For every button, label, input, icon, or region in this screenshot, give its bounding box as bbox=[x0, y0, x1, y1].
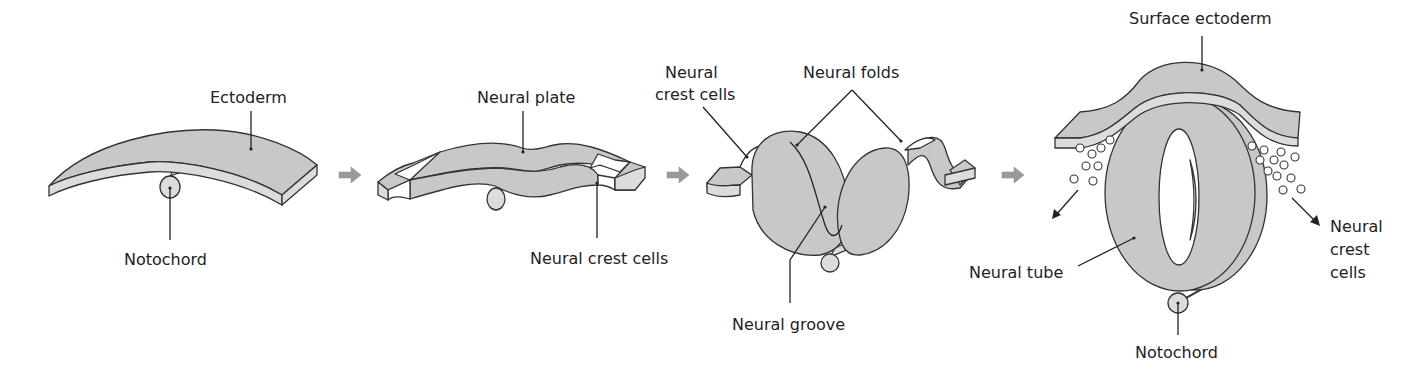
migration-arrow-left-icon bbox=[1056, 190, 1078, 215]
label-surface-ectoderm: Surface ectoderm bbox=[1129, 9, 1272, 28]
label-ectoderm: Ectoderm bbox=[210, 88, 287, 107]
label-neural-crest-line2-4: crest bbox=[1330, 240, 1369, 259]
label-neural-tube: Neural tube bbox=[969, 263, 1063, 282]
neurulation-diagram: Ectoderm Notochord Neural plate Neural c… bbox=[0, 0, 1416, 373]
label-neural-folds: Neural folds bbox=[803, 63, 899, 82]
label-neural-crest-line1-4: Neural bbox=[1330, 217, 1383, 236]
label-neural-crest-line2: crest cells bbox=[655, 85, 735, 104]
stage-3-neural-folds bbox=[707, 131, 975, 272]
label-notochord-1: Notochord bbox=[124, 250, 207, 269]
label-neural-crest-line1: Neural bbox=[665, 63, 718, 82]
stage-4-neural-tube bbox=[1052, 62, 1320, 313]
label-notochord-4: Notochord bbox=[1135, 343, 1218, 362]
step-arrow-icon bbox=[667, 167, 689, 183]
label-neural-crest-cells-2: Neural crest cells bbox=[530, 249, 668, 268]
migration-arrow-right-icon bbox=[1292, 198, 1316, 222]
stage-1-ectoderm-sheet bbox=[49, 130, 317, 205]
stage-2-neural-plate bbox=[378, 143, 645, 210]
label-neural-plate: Neural plate bbox=[477, 88, 575, 107]
step-arrow-icon bbox=[339, 167, 361, 183]
step-arrow-icon bbox=[1002, 167, 1024, 183]
label-neural-crest-line3-4: cells bbox=[1330, 263, 1366, 282]
label-neural-groove: Neural groove bbox=[732, 315, 845, 334]
